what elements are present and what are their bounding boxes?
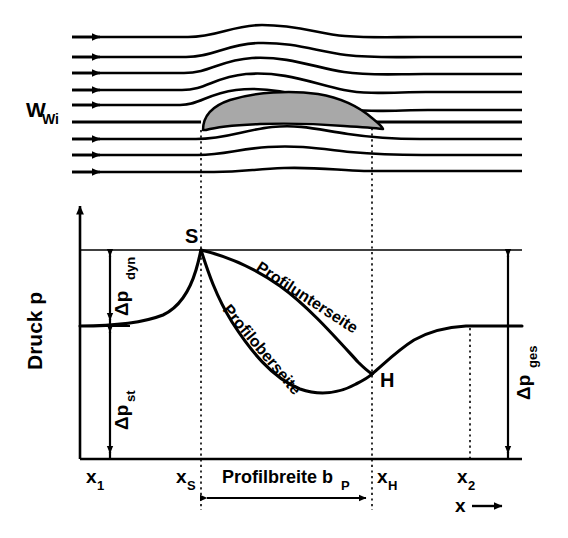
y-axis-title: Druck p xyxy=(23,292,46,370)
delta-p-ges-label: Δp xyxy=(513,375,534,400)
measure-delta-p-dyn: Δp dyn xyxy=(110,250,138,326)
tick-x1: x xyxy=(86,466,97,487)
tick-xH-sub: H xyxy=(388,478,397,493)
delta-p-st-subscript: st xyxy=(123,390,138,402)
streamline-flow-over-airfoil: W Wi xyxy=(26,25,522,196)
delta-p-dyn-label: Δp xyxy=(111,291,132,316)
curve-label-profiloberseite: Profiloberseite xyxy=(220,301,305,398)
measure-delta-p-ges: Δp ges xyxy=(508,250,540,459)
tick-x1-sub: 1 xyxy=(97,478,104,493)
delta-p-ges-subscript: ges xyxy=(525,346,540,368)
tick-x2: x xyxy=(457,466,468,487)
inflow-velocity-subscript: Wi xyxy=(42,111,59,127)
airfoil-profile xyxy=(203,92,383,130)
tick-xS: x xyxy=(176,466,187,487)
technical-diagram: W Wi xyxy=(0,0,568,538)
profilbreite-label: Profilbreite b xyxy=(222,467,333,487)
tick-x2-sub: 2 xyxy=(468,478,475,493)
delta-p-st-label: Δp xyxy=(111,405,132,430)
x-axis-title: x xyxy=(455,495,466,516)
curve-approach-flow xyxy=(80,250,201,326)
profilbreite-subscript: P xyxy=(341,478,350,493)
figure-root: W Wi xyxy=(0,0,568,538)
point-H-label: H xyxy=(380,369,394,391)
curve-label-profilunterseite: Profilunterseite xyxy=(253,258,361,336)
tick-xS-sub: S xyxy=(187,478,196,493)
measure-delta-p-st: Δp st xyxy=(110,326,138,459)
pressure-distribution-chart: Δp dyn Δp st Δp ges S H xyxy=(23,196,540,516)
point-S-label: S xyxy=(185,225,198,247)
delta-p-dyn-subscript: dyn xyxy=(123,257,138,280)
tick-xH: x xyxy=(377,466,388,487)
curve-wake-recovery xyxy=(372,326,522,374)
